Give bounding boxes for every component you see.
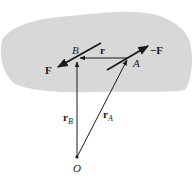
rigid-body-shape [1,12,192,93]
couple-moment-diagram: B A O r F −F r B r A [0,0,195,179]
label-vector-rB: r B [63,111,73,126]
label-vector-rA: r A [103,108,113,123]
label-point-B: B [72,44,79,56]
label-point-O: O [73,162,81,174]
label-vector-r: r [100,44,105,56]
svg-text:A: A [107,114,113,123]
svg-text:B: B [68,117,73,126]
label-point-A: A [132,57,140,69]
label-force-F: F [45,64,52,76]
label-force-negF: −F [150,44,163,56]
origin-point [75,155,78,158]
